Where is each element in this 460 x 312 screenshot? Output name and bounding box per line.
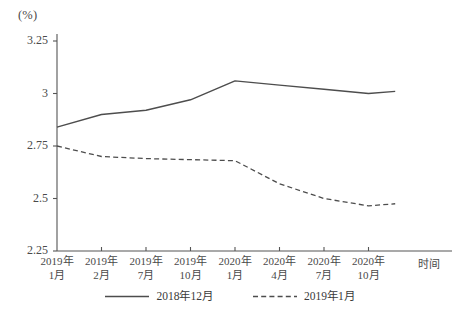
x-tick-year: 2019年	[41, 255, 74, 267]
y-axis-tick-label: 2.5	[14, 191, 48, 206]
y-axis-tick-label: 3.25	[14, 33, 48, 48]
x-tick-year: 2019年	[130, 255, 163, 267]
x-tick-month: 10月	[342, 269, 396, 283]
series-line-1	[57, 81, 395, 127]
legend-entry-2[interactable]: 2019年1月	[253, 290, 355, 302]
x-tick-year: 2020年	[352, 255, 385, 267]
chart-legend: 2018年12月2019年1月	[0, 286, 460, 306]
x-axis-name-label: 时间	[409, 255, 449, 271]
x-tick-year: 2020年	[263, 255, 296, 267]
x-tick-year: 2019年	[174, 255, 207, 267]
axis-lines	[57, 34, 452, 251]
line-chart-figure: (%) 2.252.52.7533.25 2019年1月2019年2月2019年…	[0, 0, 460, 312]
legend-entry-1[interactable]: 2018年12月	[105, 290, 213, 302]
legend-label: 2018年12月	[156, 290, 213, 302]
x-axis-ticks	[102, 247, 369, 251]
x-tick-year: 2020年	[308, 255, 341, 267]
x-axis-tick-label: 2020年10月	[342, 255, 396, 282]
data-series-lines	[57, 81, 395, 206]
y-axis-tick-label: 2.75	[14, 138, 48, 153]
y-axis-tick-label: 3	[14, 86, 48, 101]
x-tick-year: 2020年	[219, 255, 252, 267]
y-axis-ticks	[53, 41, 57, 251]
legend-dashed-line-icon	[253, 292, 297, 301]
series-line-2	[57, 146, 395, 206]
x-tick-year: 2019年	[85, 255, 118, 267]
legend-solid-line-icon	[105, 292, 149, 301]
legend-label: 2019年1月	[304, 290, 355, 302]
